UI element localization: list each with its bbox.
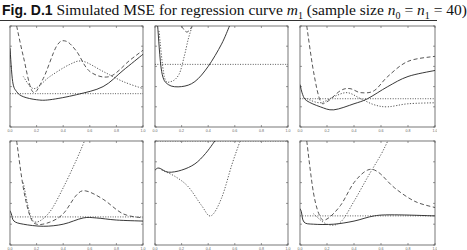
series-dashed — [307, 26, 435, 104]
series-solid — [155, 141, 215, 172]
series-dashed — [17, 141, 143, 225]
series-dotted — [314, 141, 388, 225]
plot-frame — [155, 141, 288, 245]
panel-top-left: 0.00.20.40.60.81.0 — [8, 26, 146, 133]
x-tick-label: 0.6 — [87, 129, 92, 133]
plot-frame — [155, 26, 288, 127]
series-dotted — [23, 61, 143, 89]
series-solid — [10, 48, 143, 100]
x-tick-label: 0.4 — [206, 129, 211, 133]
panel-bottom-middle: 0.00.20.40.60.81.0 — [153, 141, 291, 250]
x-tick-label: 1.0 — [286, 129, 291, 133]
x-tick-label: 0.2 — [34, 129, 39, 133]
series-solid — [300, 70, 435, 109]
panel-bottom-left: 0.00.20.40.60.81.0 — [8, 141, 146, 250]
x-tick-label: 0.4 — [61, 129, 66, 133]
panel-top-right: 0.00.20.40.60.81.0 — [298, 26, 438, 133]
panel-top-middle: 0.00.20.40.60.81.0 — [153, 26, 291, 133]
series-dashed — [307, 141, 435, 220]
series-dotted — [159, 26, 192, 82]
series-solid — [300, 209, 435, 225]
plot-frame — [300, 26, 435, 127]
x-tick-label: 0.6 — [379, 129, 384, 133]
x-tick-label: 0.0 — [8, 129, 13, 133]
series-dotted — [307, 93, 435, 107]
x-tick-label: 0.8 — [259, 129, 264, 133]
plot-frame — [10, 141, 143, 245]
x-tick-label: 0.2 — [325, 129, 330, 133]
x-tick-label: 0.0 — [153, 129, 158, 133]
panel-bottom-right: 0.00.20.40.60.81.0 — [298, 141, 438, 250]
x-tick-label: 0.6 — [232, 129, 237, 133]
plot-frame — [300, 141, 435, 245]
x-tick-label: 0.8 — [406, 129, 411, 133]
x-tick-label: 0.0 — [298, 129, 303, 133]
series-dashed — [17, 26, 143, 92]
x-tick-label: 0.8 — [114, 129, 119, 133]
plot-frame — [10, 26, 143, 127]
x-tick-label: 0.4 — [352, 129, 357, 133]
series-solid — [158, 26, 230, 87]
x-tick-label: 0.2 — [179, 129, 184, 133]
series-dotted — [23, 141, 84, 222]
x-tick-label: 1.0 — [141, 129, 146, 133]
x-tick-label: 1.0 — [433, 129, 438, 133]
series-dotted — [162, 141, 240, 216]
